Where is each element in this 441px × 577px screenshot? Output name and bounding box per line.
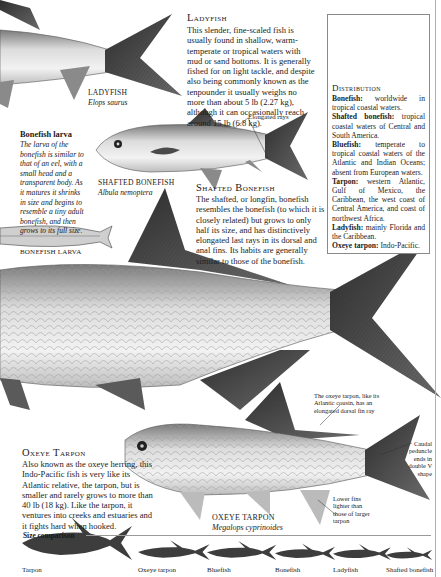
distribution-item: Oxeye tarpon: Indo-Pacific. — [332, 241, 425, 250]
ladyfish-heading: Ladyfish — [187, 12, 227, 23]
distribution-species: Tarpon: — [332, 177, 367, 186]
shafted-bonefish-heading: Shafted Bonefish — [196, 182, 275, 193]
distribution-list: Bonefish: worldwide in tropical coastal … — [332, 94, 425, 250]
distribution-species: Shafted bonefish: — [332, 112, 402, 121]
ladyfish-label: LADYFISH — [88, 88, 127, 97]
bonefish-larva-heading: Bonefish larva — [20, 130, 72, 139]
size-comparison-rule — [86, 535, 431, 536]
shafted-bonefish-label: SHAFTED BONEFISH — [98, 178, 174, 187]
silhouette-label: Oxeye tarpon — [138, 566, 176, 574]
distribution-item: Tarpon: western Atlantic, Gulf of Mexico… — [332, 177, 425, 223]
distribution-species: Oxeye tarpon: — [332, 241, 381, 250]
distribution-box: Distribution Bonefish: worldwide in trop… — [327, 14, 430, 254]
shafted-bonefish-description: The shafted, or longfin, bonefish resemb… — [196, 194, 326, 266]
bonefish-larva-description: The larva of the bonefish is similar to … — [20, 140, 88, 236]
distribution-item: Bluefish: temperate to tropical coastal … — [332, 140, 425, 177]
shafted-bonefish-scientific-name: Albula nemoptera — [98, 188, 153, 197]
distribution-range: Indo-Pacific. — [381, 241, 420, 250]
silhouette-label: Tarpon — [22, 566, 42, 574]
silhouette-label: Bluefish — [207, 566, 231, 574]
oxeye-tarpon-scientific-name: Megalops cyprinoides — [212, 523, 283, 532]
silhouette-shafted-bonefish — [386, 547, 432, 560]
silhouette-ladyfish — [333, 544, 391, 560]
silhouette-bluefish — [207, 541, 276, 560]
distribution-item: Bonefish: worldwide in tropical coastal … — [332, 94, 425, 112]
oxeye-tarpon-illustration — [125, 382, 430, 525]
silhouette-bonefish — [275, 543, 335, 560]
silhouette-oxeye-tarpon — [138, 540, 210, 560]
distribution-species: Bluefish: — [332, 140, 375, 149]
dorsal-ray-callout: The oxeye tarpon, like its Atlantic cous… — [314, 392, 384, 414]
elongated-rays-callout: Elongated rays — [248, 113, 289, 120]
distribution-item: Shafted bonefish: tropical coastal water… — [332, 112, 425, 140]
silhouette-label: Shafted bonefish — [386, 566, 433, 574]
silhouette-label: Ladyfish — [333, 566, 358, 574]
distribution-species: Bonefish: — [332, 94, 375, 103]
distribution-species: Ladyfish: — [332, 223, 366, 232]
lower-fins-callout: Lower fins lighter than those of larger … — [333, 495, 373, 525]
bonefish-larva-label: BONEFISH LARVA — [20, 248, 81, 256]
silhouette-label: Bonefish — [275, 566, 300, 574]
ladyfish-scientific-name: Elops saurus — [88, 98, 127, 107]
oxeye-tarpon-label: OXEYE TARPON — [212, 513, 275, 522]
size-comparison-heading: Size comparison — [23, 531, 75, 540]
caudal-peduncle-callout: Caudal peduncle ends in double V shape — [400, 440, 432, 477]
distribution-item: Ladyfish: mainly Florida and the Caribbe… — [332, 223, 425, 241]
distribution-heading: Distribution — [332, 83, 425, 93]
oxeye-tarpon-description: Also known as the oxeye herring, this In… — [22, 459, 157, 531]
page-edge-rule — [435, 0, 436, 577]
oxeye-tarpon-heading: Oxeye Tarpon — [22, 447, 86, 458]
